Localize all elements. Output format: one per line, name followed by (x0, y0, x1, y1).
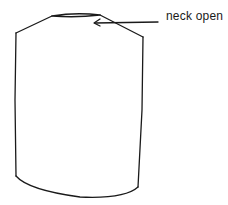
garment-outline (0, 0, 228, 205)
diagram-canvas: neck open (0, 0, 228, 205)
right-side (138, 37, 143, 187)
hem-curve (16, 176, 138, 197)
neck-open-label: neck open (166, 9, 223, 23)
arrow-line (95, 22, 158, 23)
left-side (15, 33, 16, 176)
left-shoulder (16, 16, 52, 33)
neck-opening (52, 14, 100, 17)
right-shoulder (100, 15, 143, 37)
